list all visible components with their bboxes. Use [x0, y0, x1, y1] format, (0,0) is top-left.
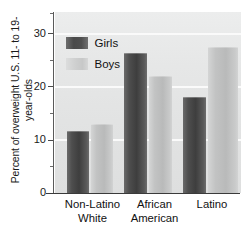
- legend-swatch-boys-icon: [66, 58, 88, 70]
- bar-boys-african-american: [149, 76, 172, 193]
- bar-chart: Percent of overweight U.S. 11- to 19- ye…: [0, 0, 245, 236]
- x-category-line2: American: [118, 212, 191, 226]
- legend: Girls Boys: [66, 35, 121, 77]
- bar-cap: [149, 76, 172, 77]
- bar-cap: [91, 124, 113, 125]
- y-axis-title-line1: Percent of overweight U.S. 11- to 19-: [10, 17, 23, 183]
- x-axis-line: [46, 193, 240, 194]
- bar-cap: [67, 131, 89, 132]
- y-tick-label-10: 10: [24, 134, 46, 145]
- y-tick-label-30: 30: [24, 28, 46, 39]
- legend-label-boys: Boys: [95, 58, 121, 70]
- legend-item-boys: Boys: [66, 56, 121, 71]
- legend-item-girls: Girls: [66, 35, 121, 50]
- bar-cap: [208, 47, 238, 48]
- x-category-line1: Latino: [184, 198, 240, 212]
- y-tick-label-0: 0: [24, 187, 46, 198]
- legend-swatch-girls-icon: [66, 37, 88, 49]
- x-category-label-african-american: African American: [118, 198, 191, 225]
- x-category-label-latino: Latino: [184, 198, 240, 212]
- y-axis-title-line2: year-olds: [23, 17, 36, 183]
- bar-cap: [183, 97, 206, 98]
- bar-girls-african-american: [124, 53, 147, 193]
- legend-label-girls: Girls: [95, 37, 119, 49]
- bar-cap: [124, 53, 147, 54]
- bar-girls-non-latino-white: [67, 131, 89, 193]
- bar-girls-latino: [183, 97, 206, 193]
- bar-boys-latino: [208, 47, 238, 193]
- y-tick-label-20: 20: [24, 81, 46, 92]
- plot-area: Girls Boys: [55, 12, 241, 193]
- bar-boys-non-latino-white: [91, 124, 113, 193]
- x-category-line1: African: [118, 198, 191, 212]
